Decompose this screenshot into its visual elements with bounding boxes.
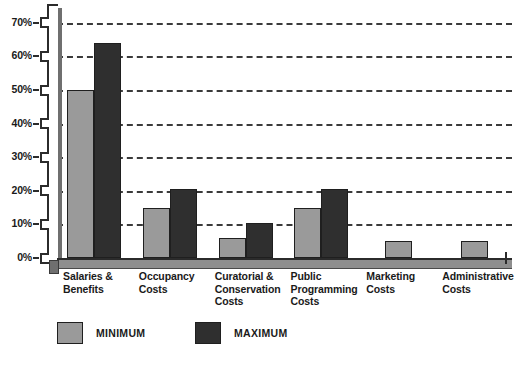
y-tick-mark	[33, 190, 39, 192]
legend-item: MAXIMUM	[195, 322, 287, 344]
y-tick-mark	[33, 89, 39, 91]
bar-maximum	[170, 189, 197, 258]
floor-right-cap	[505, 252, 507, 264]
x-axis-label-line: Costs	[442, 283, 471, 295]
x-axis-label-line: Curatorial &	[215, 270, 274, 282]
x-axis-label-line: Costs	[215, 295, 244, 307]
y-tick-bracket	[40, 152, 49, 163]
y-tick-mark	[33, 123, 39, 125]
x-axis-category-labels: Salaries &BenefitsOccupancyCostsCuratori…	[57, 270, 512, 318]
y-axis-tick-label: 20%	[0, 185, 32, 195]
y-tick-bracket	[40, 253, 49, 264]
x-axis-category-label: Salaries &Benefits	[63, 270, 135, 295]
x-axis-label-line: Conservation	[215, 283, 281, 295]
bar-group	[57, 6, 133, 258]
bar-maximum	[246, 223, 273, 258]
bar-group	[133, 6, 209, 258]
y-axis-tick-label: 40%	[0, 118, 32, 128]
y-tick-bracket	[40, 219, 49, 230]
bar-minimum	[67, 90, 94, 258]
y-tick-mark	[33, 55, 39, 57]
y-axis-tick-label: 0%	[0, 252, 32, 262]
bar-maximum	[94, 43, 121, 258]
bar-groups	[57, 6, 512, 258]
y-tick-mark	[33, 22, 39, 24]
bar-minimum	[385, 241, 412, 258]
y-tick-bracket	[40, 185, 49, 196]
bar-chart: 70%60%50%40%30%20%10%0% Salaries &Benefi…	[0, 0, 527, 366]
y-tick-bracket	[40, 51, 49, 62]
bar-minimum	[294, 208, 321, 258]
bar-group	[436, 6, 512, 258]
floor-slab	[57, 260, 512, 269]
bar-minimum	[143, 208, 170, 258]
x-axis-label-line: Public	[291, 270, 322, 282]
legend-label: MINIMUM	[96, 327, 145, 339]
y-tick-bracket	[40, 17, 49, 28]
bar-group	[360, 6, 436, 258]
x-axis-category-label: MarketingCosts	[366, 270, 438, 295]
y-tick-mark	[33, 223, 39, 225]
x-axis-label-line: Programming	[291, 283, 358, 295]
x-axis-label-line: Costs	[291, 295, 320, 307]
y-axis-tick-label: 30%	[0, 151, 32, 161]
x-axis-label-line: Occupancy	[139, 270, 195, 282]
x-axis-label-line: Administrative	[442, 270, 514, 282]
y-tick-bracket	[40, 118, 49, 129]
x-axis-label-line: Costs	[139, 283, 168, 295]
bar-minimum	[219, 238, 246, 258]
y-tick-bracket	[40, 85, 49, 96]
y-tick-mark	[33, 257, 39, 259]
legend-swatch-max	[195, 322, 221, 344]
x-axis-category-label: OccupancyCosts	[139, 270, 211, 295]
y-tick-mark	[33, 156, 39, 158]
y-axis-tick-label: 10%	[0, 218, 32, 228]
bar-group	[285, 6, 361, 258]
x-axis-label-line: Salaries &	[63, 270, 113, 282]
legend-swatch-min	[57, 322, 83, 344]
x-axis-category-label: Curatorial &ConservationCosts	[215, 270, 287, 308]
x-axis-label-line: Costs	[366, 283, 395, 295]
chart-legend: MINIMUMMAXIMUM	[0, 322, 527, 366]
x-axis-label-line: Benefits	[63, 283, 104, 295]
x-axis-category-label: PublicProgrammingCosts	[291, 270, 363, 308]
x-axis-label-line: Marketing	[366, 270, 415, 282]
y-axis-tick-label: 50%	[0, 84, 32, 94]
y-axis-tick-label: 70%	[0, 17, 32, 27]
legend-item: MINIMUM	[57, 322, 145, 344]
y-axis-tick-label: 60%	[0, 50, 32, 60]
bar-minimum	[461, 241, 488, 258]
x-axis-category-label: AdministrativeCosts	[442, 270, 514, 295]
legend-label: MAXIMUM	[234, 327, 287, 339]
bar-group	[209, 6, 285, 258]
bar-maximum	[321, 189, 348, 258]
